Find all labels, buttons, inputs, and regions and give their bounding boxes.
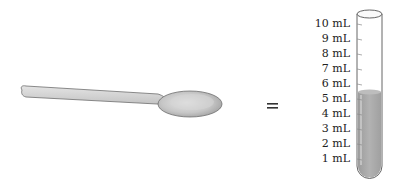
scale-label-10ml: 10 mL xyxy=(315,18,350,29)
diagram-canvas: 10 mL 9 mL 8 mL 7 mL 6 mL 5 mL 4 mL 3 mL… xyxy=(0,0,397,183)
teaspoon-icon xyxy=(21,86,222,117)
scale-label-9ml: 9 mL xyxy=(322,33,350,44)
scale-label-8ml: 8 mL xyxy=(322,48,350,59)
test-tube-icon xyxy=(357,10,382,179)
scale-label-6ml: 6 mL xyxy=(322,78,350,89)
scale-label-7ml: 7 mL xyxy=(322,63,350,74)
scale-label-1ml: 1 mL xyxy=(322,153,350,164)
scale-label-5ml: 5 mL xyxy=(322,93,350,104)
equals-sign xyxy=(267,103,278,109)
scale-label-2ml: 2 mL xyxy=(322,138,350,149)
scale-label-4ml: 4 mL xyxy=(322,108,350,119)
scale-label-3ml: 3 mL xyxy=(322,123,350,134)
